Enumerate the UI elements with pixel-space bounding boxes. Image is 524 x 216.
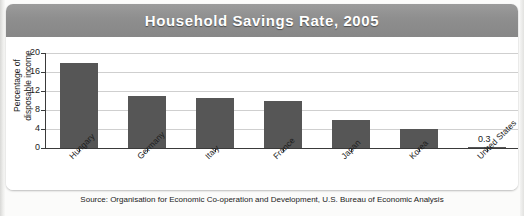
y-tick-label: 20 <box>24 47 40 57</box>
gridline <box>45 72 518 73</box>
bar-data-label: 0.3 <box>478 134 491 144</box>
y-tick-mark <box>41 110 45 111</box>
page-edge-right <box>520 0 524 216</box>
y-axis-line <box>45 53 46 148</box>
gridline <box>45 91 518 92</box>
bar <box>196 98 234 148</box>
y-tick-label: 4 <box>24 123 40 133</box>
source-note: Source: Organisation for Economic Co-ope… <box>0 195 524 204</box>
y-tick-mark <box>41 53 45 54</box>
y-tick-mark <box>41 129 45 130</box>
y-tick-label: 8 <box>24 104 40 114</box>
y-tick-label: 16 <box>24 66 40 76</box>
chart-card: Household Savings Rate, 2005 Percentage … <box>6 4 518 190</box>
gridline <box>45 53 518 54</box>
chart-plot-area: Percentage of disposable income 04812162… <box>6 37 518 190</box>
chart-title-bar: Household Savings Rate, 2005 <box>6 4 518 37</box>
y-tick-mark <box>41 148 45 149</box>
y-tick-label: 12 <box>24 85 40 95</box>
y-tick-mark <box>41 91 45 92</box>
page-edge-left <box>0 0 5 216</box>
y-tick-label: 0 <box>24 142 40 152</box>
y-tick-mark <box>41 72 45 73</box>
page-title: Household Savings Rate, 2005 <box>145 12 379 29</box>
